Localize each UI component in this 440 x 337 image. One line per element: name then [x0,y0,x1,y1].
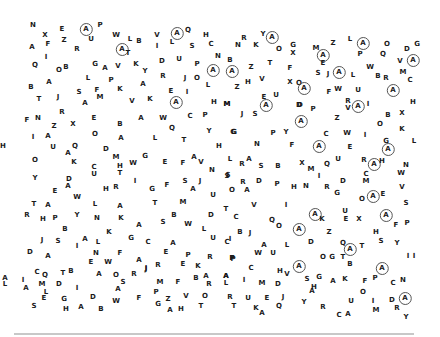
letter[interactable]: M [363,178,370,185]
letter[interactable]: F [290,142,295,149]
letter[interactable]: H [245,79,251,86]
letter[interactable]: B [117,121,122,128]
letter[interactable]: U [88,36,94,43]
letter[interactable]: N [254,141,260,148]
letter[interactable]: S [258,163,263,170]
letter[interactable]: T [360,243,365,250]
letter[interactable]: L [170,39,174,46]
letter[interactable]: O [229,187,235,194]
letter[interactable]: T [224,206,229,213]
letter[interactable]: E [265,295,270,302]
letter[interactable]: I [372,298,375,305]
letter[interactable]: R [74,46,79,53]
letter[interactable]: O [276,223,282,230]
letter[interactable]: H [63,306,69,313]
letter[interactable]: I [243,277,246,284]
letter[interactable]: X [356,216,361,223]
letter[interactable]: Z [234,84,239,91]
letter[interactable]: T [118,170,123,177]
letter[interactable]: U [335,156,341,163]
letter[interactable]: O [113,272,119,279]
letter[interactable]: K [71,159,76,166]
letter[interactable]: L [93,201,97,208]
circled-target-letter[interactable]: A [174,30,179,37]
letter[interactable]: K [195,263,200,270]
letter[interactable]: X [70,121,75,128]
letter[interactable]: P [404,220,409,227]
circled-target-letter[interactable]: A [210,67,215,74]
letter[interactable]: S [252,111,257,118]
letter[interactable]: G [329,254,335,261]
letter[interactable]: Y [403,314,408,321]
letter[interactable]: S [189,43,194,50]
letter[interactable]: I [134,178,137,185]
letter[interactable]: H [203,32,209,39]
letter[interactable]: V [259,76,264,83]
letter[interactable]: C [233,214,238,221]
letter[interactable]: N [235,42,241,49]
letter[interactable]: Q [269,217,275,224]
letter[interactable]: A [261,242,266,249]
letter[interactable]: P [372,275,377,282]
letter[interactable]: E [42,295,47,302]
letter[interactable]: D [208,212,214,219]
letter[interactable]: Y [283,129,288,136]
letter[interactable]: V [154,32,159,39]
letter[interactable]: K [342,276,347,283]
letter[interactable]: S [378,238,383,245]
letter[interactable]: Y [206,128,211,135]
letter[interactable]: G [290,42,296,49]
letter[interactable]: H [178,306,184,313]
letter[interactable]: A [203,273,208,280]
letter[interactable]: Y [74,212,79,219]
letter[interactable]: V [129,98,134,105]
letter[interactable]: C [208,41,213,48]
letter[interactable]: T [126,50,131,57]
circled-target-letter[interactable]: A [263,102,268,109]
letter[interactable]: F [363,278,368,285]
letter[interactable]: F [46,41,51,48]
letter[interactable]: K [253,305,258,312]
letter[interactable]: A [65,150,70,157]
letter[interactable]: D [56,281,62,288]
letter[interactable]: A [82,100,87,107]
letter[interactable]: Q [185,27,191,34]
letter[interactable]: D [159,58,165,65]
letter[interactable]: B [62,226,67,233]
letter[interactable]: Q [169,125,175,132]
letter[interactable]: E [169,88,174,95]
letter[interactable]: X [399,110,404,117]
letter[interactable]: R [207,254,212,261]
letter[interactable]: I [364,132,367,139]
letter[interactable]: B [275,163,280,170]
letter[interactable]: N [403,162,409,169]
circled-target-letter[interactable]: A [320,52,325,59]
letter[interactable]: U [355,87,361,94]
circled-target-letter[interactable]: A [379,265,384,272]
letter[interactable]: I [285,202,288,209]
letter[interactable]: E [381,191,386,198]
letter[interactable]: G [230,129,236,136]
letter[interactable]: P [108,77,113,84]
letter[interactable]: A [117,203,122,210]
letter[interactable]: R [361,157,366,164]
letter[interactable]: B [385,112,390,119]
letter[interactable]: W [397,170,405,177]
letter[interactable]: D [275,281,281,288]
circled-target-letter[interactable]: A [301,85,306,92]
letter[interactable]: W [159,115,167,122]
letter[interactable]: D [404,46,410,53]
letter[interactable]: O [32,157,38,164]
letter[interactable]: Q [42,272,48,279]
letter[interactable]: A [23,285,28,292]
letter[interactable]: A [82,236,87,243]
letter[interactable]: I [45,54,48,61]
letter[interactable]: F [165,182,170,189]
letter[interactable]: W [104,259,112,266]
letter[interactable]: W [129,160,137,167]
letter[interactable]: L [228,156,232,163]
letter[interactable]: S [76,89,81,96]
letter[interactable]: P [97,22,102,29]
letter[interactable]: J [184,75,187,82]
circled-target-letter[interactable]: A [173,99,178,106]
